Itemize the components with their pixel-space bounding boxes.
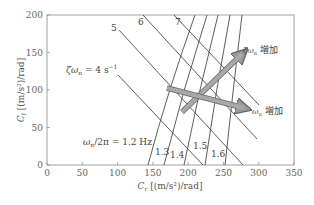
- x-axis: [47, 162, 294, 165]
- label-zeta-7: 7: [175, 17, 181, 27]
- label-zeta-6: 6: [138, 17, 144, 27]
- y-tick-label: 150: [26, 48, 43, 58]
- annotation-zeta-4: ζωn = 4 s−1: [66, 63, 117, 76]
- x-tick-label: 150: [144, 168, 161, 178]
- label-omega-1-4: 1.4: [170, 150, 185, 160]
- x-tick-label: 300: [250, 168, 267, 178]
- y-tick-label: 0: [37, 160, 43, 170]
- x-tick-label: 100: [109, 168, 126, 178]
- y-tick-label: 50: [32, 123, 44, 133]
- y-axis-title: Cf [(m/s²)/rad]: [16, 58, 27, 122]
- x-tick-label: 0: [44, 168, 50, 178]
- y-axis: [47, 15, 50, 165]
- x-tick-label: 200: [180, 168, 197, 178]
- x-tick-label: 50: [77, 168, 89, 178]
- label-omega-1-6: 1.6: [211, 149, 226, 159]
- omega-1-6-curve: [225, 15, 242, 165]
- omega-1-5-curve: [205, 15, 230, 165]
- y-tick-label: 200: [26, 10, 43, 20]
- label-zeta-5: 5: [111, 23, 117, 33]
- annotation-omega-increase: ωn 増加: [252, 105, 283, 117]
- x-tick-label: 350: [285, 168, 302, 178]
- x-tick-label: 250: [215, 168, 232, 178]
- y-tick-label: 100: [26, 85, 43, 95]
- label-omega-1-3: 1.3: [155, 147, 170, 157]
- label-omega-1-5: 1.5: [193, 141, 208, 151]
- annotation-zeta-increase: ζωn 増加: [243, 44, 278, 56]
- chart: 0 50 100 150 200 0 50 100 150 200 250 30…: [0, 0, 314, 205]
- x-axis-title: Cr [(m/s²)/rad]: [138, 181, 203, 192]
- annotation-omega-1-2: ωn/2π = 1.2 Hz: [83, 137, 152, 148]
